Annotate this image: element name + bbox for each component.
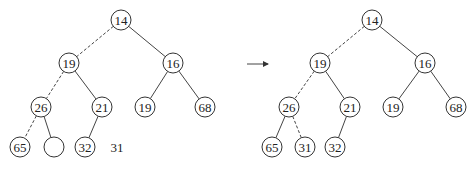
tree-node: 26 [279, 97, 299, 117]
node-label: 31 [299, 140, 312, 155]
edges-layer [25, 26, 451, 138]
tree-node: 21 [340, 97, 360, 117]
tree-node: 26 [31, 97, 51, 117]
tree-edge [89, 116, 98, 138]
node-label: 19 [139, 100, 152, 115]
tree-node [44, 137, 64, 157]
pending-value-label: 31 [111, 140, 124, 155]
diagram-canvas: 14191626211968653214191626211968653132 3… [0, 0, 475, 173]
tree-node: 65 [10, 137, 30, 157]
tree-edge [25, 116, 37, 138]
tree-node: 19 [310, 53, 330, 73]
tree-node: 21 [92, 97, 112, 117]
node-circle [44, 137, 64, 157]
tree-edge [46, 71, 63, 98]
node-label: 19 [63, 56, 76, 71]
tree-node: 32 [75, 137, 95, 157]
tree-edge [75, 71, 96, 99]
node-label: 19 [387, 100, 400, 115]
node-label: 19 [314, 56, 327, 71]
tree-edge [326, 71, 345, 98]
tree-edge [179, 71, 199, 99]
node-label: 14 [115, 13, 129, 28]
node-label: 14 [366, 13, 380, 28]
tree-node: 68 [195, 97, 215, 117]
tree-node: 14 [362, 10, 382, 30]
node-label: 68 [450, 100, 463, 115]
tree-edge [431, 71, 450, 99]
tree-edge [44, 117, 51, 138]
tree-edge [339, 116, 347, 137]
tree-node: 16 [415, 53, 435, 73]
tree-edge [399, 71, 419, 99]
nodes-layer: 14191626211968653214191626211968653132 [10, 10, 466, 157]
tree-node: 32 [325, 137, 345, 157]
node-label: 32 [79, 140, 92, 155]
node-label: 16 [419, 56, 433, 71]
tree-node: 65 [262, 137, 282, 157]
tree-edge [293, 116, 302, 137]
heap-diagram: 14191626211968653214191626211968653132 3… [0, 0, 475, 173]
node-label: 65 [266, 140, 279, 155]
node-label: 32 [329, 140, 342, 155]
node-label: 68 [199, 100, 212, 115]
tree-node: 68 [446, 97, 466, 117]
tree-node: 14 [111, 10, 131, 30]
tree-edge [328, 26, 365, 56]
tree-edge [380, 26, 417, 56]
tree-node: 19 [383, 97, 403, 117]
tree-node: 19 [59, 53, 79, 73]
node-label: 26 [35, 100, 49, 115]
tree-node: 31 [295, 137, 315, 157]
tree-edge [150, 71, 167, 98]
tree-edge [77, 26, 114, 56]
tree-edge [295, 71, 314, 99]
labels-layer: 31 [111, 140, 124, 155]
node-label: 65 [14, 140, 27, 155]
node-label: 21 [344, 100, 357, 115]
node-label: 26 [283, 100, 297, 115]
node-label: 21 [96, 100, 109, 115]
tree-edge [276, 116, 285, 138]
node-label: 16 [167, 56, 181, 71]
tree-edge [129, 26, 166, 56]
tree-node: 19 [135, 97, 155, 117]
tree-node: 16 [163, 53, 183, 73]
